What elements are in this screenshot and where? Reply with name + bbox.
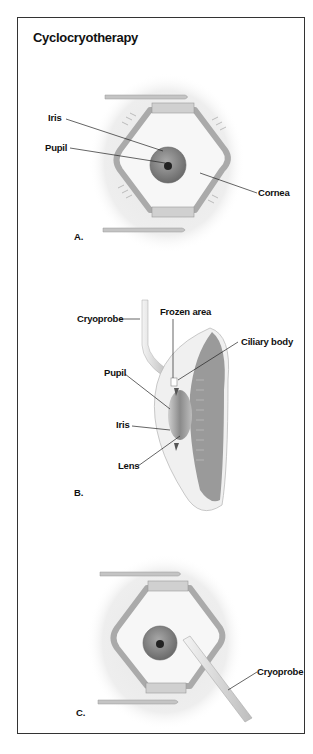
panel-letter-a: A. bbox=[74, 231, 83, 242]
illustration bbox=[0, 0, 313, 754]
label-cryoprobe-b: Cryoprobe bbox=[77, 313, 123, 324]
label-cryoprobe-c: Cryoprobe bbox=[257, 666, 303, 677]
eye-side-view-b bbox=[119, 300, 238, 511]
label-iris-b: Iris bbox=[116, 419, 129, 430]
label-cornea-a: Cornea bbox=[258, 187, 290, 198]
label-frozen-area: Frozen area bbox=[160, 306, 211, 317]
label-iris-a: Iris bbox=[48, 112, 61, 123]
label-pupil-a: Pupil bbox=[45, 142, 67, 153]
frozen-area-marker bbox=[171, 378, 177, 386]
label-ciliary-body: Ciliary body bbox=[241, 336, 293, 347]
label-lens: Lens bbox=[118, 460, 139, 471]
panel-letter-b: B. bbox=[74, 487, 83, 498]
eye-front-view-c bbox=[87, 554, 257, 730]
panel-letter-c: C. bbox=[76, 707, 85, 718]
eye-front-view-a bbox=[66, 73, 257, 253]
label-pupil-b: Pupil bbox=[104, 367, 126, 378]
